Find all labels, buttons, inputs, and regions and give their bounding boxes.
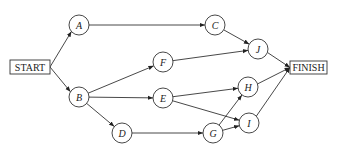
edge-h-to-finish [258, 68, 290, 84]
node-label: E [159, 93, 166, 104]
node-e: E [153, 88, 173, 108]
node-label: C [212, 20, 219, 31]
edge-g-to-i [223, 126, 240, 131]
node-h: H [238, 77, 258, 97]
start-box-label: START [15, 62, 45, 73]
finish-box: FINISH [290, 61, 327, 74]
edge-g-to-h [219, 95, 242, 125]
edge-j-to-finish [267, 52, 290, 67]
finish-box-label: FINISH [292, 62, 324, 73]
edge-e-to-h [173, 88, 238, 96]
node-d: D [112, 123, 132, 143]
node-a: A [69, 15, 89, 35]
node-label: A [75, 20, 83, 31]
node-label: D [117, 128, 126, 139]
edge-start-to-a [50, 32, 71, 67]
node-g: G [203, 123, 223, 143]
node-label: I [246, 118, 251, 129]
edge-b-to-e [89, 97, 153, 98]
activity-network-diagram: STARTFINISHABCDEFGHIJ [0, 0, 343, 151]
start-box: START [10, 60, 50, 74]
node-b: B [69, 87, 89, 107]
node-i: I [239, 113, 259, 133]
node-label: B [76, 92, 82, 103]
node-label: J [256, 44, 261, 55]
nodes-layer: STARTFINISHABCDEFGHIJ [10, 15, 327, 143]
edge-c-to-j [224, 30, 250, 44]
node-f: F [153, 52, 173, 72]
edge-start-to-b [50, 67, 70, 92]
node-c: C [205, 15, 225, 35]
edge-i-to-finish [256, 68, 290, 117]
node-label: G [209, 128, 216, 139]
node-j: J [248, 39, 268, 59]
edge-e-to-i [173, 101, 240, 120]
node-label: F [159, 57, 167, 68]
edge-b-to-f [88, 66, 154, 93]
edge-f-to-j [173, 50, 248, 60]
node-label: H [243, 82, 252, 93]
edge-b-to-d [87, 103, 115, 126]
